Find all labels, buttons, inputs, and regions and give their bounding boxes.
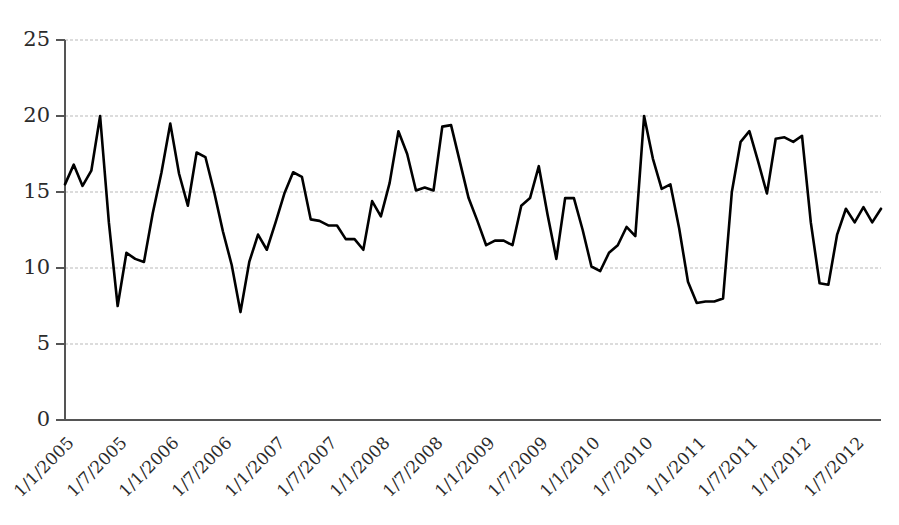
y-axis-tick-label: 10 [8, 257, 50, 278]
y-axis-tick-label: 15 [8, 181, 50, 202]
gridlines [65, 40, 881, 420]
y-axis-ticks [56, 40, 65, 420]
y-axis-tick-label: 25 [8, 29, 50, 50]
line-chart: 0510152025 1/1/20051/7/20051/1/20061/7/2… [0, 0, 899, 525]
y-axis-tick-label: 0 [8, 409, 50, 430]
y-axis-tick-label: 20 [8, 105, 50, 126]
chart-canvas [0, 0, 899, 525]
data-line [65, 116, 881, 312]
y-axis-tick-label: 5 [8, 333, 50, 354]
